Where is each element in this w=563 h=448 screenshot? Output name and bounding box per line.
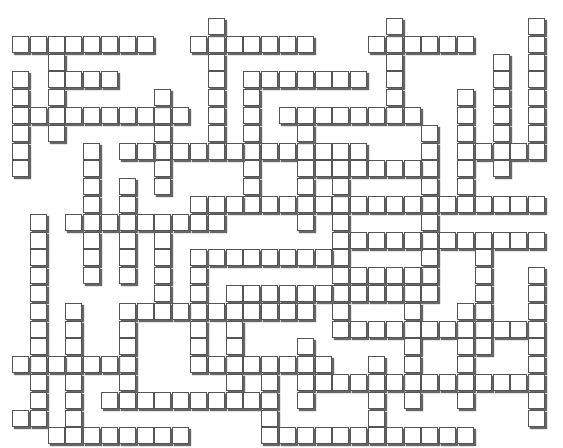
crossword-cell[interactable] [65,410,82,427]
crossword-cell[interactable] [30,356,47,373]
crossword-cell[interactable] [457,178,474,195]
crossword-cell[interactable] [208,303,225,320]
crossword-cell[interactable] [137,392,154,409]
crossword-cell[interactable] [172,427,189,444]
crossword-cell[interactable] [226,285,243,302]
crossword-cell[interactable] [368,107,385,124]
crossword-cell[interactable] [528,54,545,71]
crossword-cell[interactable] [137,303,154,320]
crossword-cell[interactable] [386,160,403,177]
crossword-cell[interactable] [332,232,349,249]
crossword-cell[interactable] [404,392,421,409]
crossword-cell[interactable] [172,214,189,231]
crossword-cell[interactable] [475,249,492,266]
crossword-cell[interactable] [510,374,527,391]
crossword-cell[interactable] [457,356,474,373]
crossword-cell[interactable] [12,89,29,106]
crossword-cell[interactable] [48,107,65,124]
crossword-cell[interactable] [510,321,527,338]
crossword-cell[interactable] [368,196,385,213]
crossword-cell[interactable] [226,303,243,320]
crossword-cell[interactable] [65,214,82,231]
crossword-cell[interactable] [190,338,207,355]
crossword-cell[interactable] [315,356,332,373]
crossword-cell[interactable] [119,232,136,249]
crossword-cell[interactable] [30,392,47,409]
crossword-cell[interactable] [243,143,260,160]
crossword-cell[interactable] [421,267,438,284]
crossword-cell[interactable] [226,321,243,338]
crossword-cell[interactable] [119,249,136,266]
crossword-cell[interactable] [154,89,171,106]
crossword-cell[interactable] [154,267,171,284]
crossword-cell[interactable] [350,196,367,213]
crossword-cell[interactable] [243,303,260,320]
crossword-cell[interactable] [190,267,207,284]
crossword-cell[interactable] [154,143,171,160]
crossword-cell[interactable] [386,107,403,124]
crossword-cell[interactable] [65,374,82,391]
crossword-cell[interactable] [83,107,100,124]
crossword-cell[interactable] [421,36,438,53]
crossword-cell[interactable] [528,374,545,391]
crossword-cell[interactable] [48,36,65,53]
crossword-cell[interactable] [297,249,314,266]
crossword-cell[interactable] [493,107,510,124]
crossword-cell[interactable] [386,321,403,338]
crossword-cell[interactable] [457,374,474,391]
crossword-cell[interactable] [261,249,278,266]
crossword-cell[interactable] [137,143,154,160]
crossword-cell[interactable] [30,374,47,391]
crossword-cell[interactable] [350,321,367,338]
crossword-cell[interactable] [172,107,189,124]
crossword-cell[interactable] [154,285,171,302]
crossword-cell[interactable] [297,303,314,320]
crossword-cell[interactable] [83,427,100,444]
crossword-cell[interactable] [528,392,545,409]
crossword-cell[interactable] [332,321,349,338]
crossword-cell[interactable] [65,356,82,373]
crossword-cell[interactable] [493,89,510,106]
crossword-cell[interactable] [386,36,403,53]
crossword-cell[interactable] [439,321,456,338]
crossword-cell[interactable] [528,303,545,320]
crossword-cell[interactable] [226,143,243,160]
crossword-cell[interactable] [297,160,314,177]
crossword-cell[interactable] [493,374,510,391]
crossword-cell[interactable] [368,232,385,249]
crossword-cell[interactable] [83,196,100,213]
crossword-cell[interactable] [493,160,510,177]
crossword-cell[interactable] [439,36,456,53]
crossword-cell[interactable] [65,71,82,88]
crossword-cell[interactable] [297,338,314,355]
crossword-cell[interactable] [243,125,260,142]
crossword-cell[interactable] [332,285,349,302]
crossword-cell[interactable] [457,160,474,177]
crossword-cell[interactable] [457,125,474,142]
crossword-cell[interactable] [226,36,243,53]
crossword-cell[interactable] [154,427,171,444]
crossword-cell[interactable] [404,36,421,53]
crossword-cell[interactable] [261,196,278,213]
crossword-cell[interactable] [279,285,296,302]
crossword-cell[interactable] [404,107,421,124]
crossword-cell[interactable] [493,54,510,71]
crossword-cell[interactable] [528,71,545,88]
crossword-cell[interactable] [119,143,136,160]
crossword-cell[interactable] [332,374,349,391]
crossword-cell[interactable] [65,392,82,409]
crossword-cell[interactable] [65,338,82,355]
crossword-cell[interactable] [172,143,189,160]
crossword-cell[interactable] [83,214,100,231]
crossword-cell[interactable] [65,303,82,320]
crossword-cell[interactable] [83,249,100,266]
crossword-cell[interactable] [154,303,171,320]
crossword-cell[interactable] [243,285,260,302]
crossword-cell[interactable] [368,374,385,391]
crossword-cell[interactable] [421,427,438,444]
crossword-cell[interactable] [332,160,349,177]
crossword-cell[interactable] [137,214,154,231]
crossword-cell[interactable] [137,107,154,124]
crossword-cell[interactable] [457,196,474,213]
crossword-cell[interactable] [279,196,296,213]
